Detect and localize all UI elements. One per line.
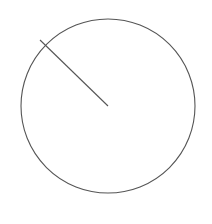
diagram-canvas [0, 0, 212, 224]
radius-line [40, 40, 108, 106]
